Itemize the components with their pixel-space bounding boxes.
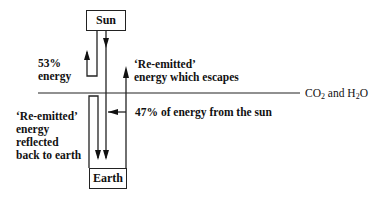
earth-label: Earth: [93, 171, 123, 185]
absorbed-47-label: 47% of energy from the sun: [135, 106, 272, 119]
arrow-left-icon: [108, 109, 118, 115]
arrow-down-icon: [103, 38, 109, 48]
escapes-label: ‘Re-emitted’ energy which escapes: [134, 58, 239, 84]
earth-box: Earth: [89, 168, 127, 189]
reflected-53-label: 53% energy: [38, 57, 71, 83]
reflected-back-label: ‘Re-emitted’ energy reflected back to ea…: [16, 110, 81, 162]
greenhouse-effect-diagram: Sun Earth 53% energy ‘Re-emitted’ energy…: [0, 0, 386, 201]
sun-box: Sun: [86, 10, 126, 31]
arrow-down-icon: [103, 150, 109, 160]
reflect-back-path: [89, 96, 98, 168]
reflected-path: [87, 31, 97, 76]
atmosphere-label: CO2 and H2O: [305, 87, 368, 103]
arrow-down-icon: [95, 150, 101, 160]
sun-label: Sun: [96, 13, 116, 27]
arrow-up-icon: [84, 50, 90, 60]
arrow-up-icon: [123, 66, 129, 78]
